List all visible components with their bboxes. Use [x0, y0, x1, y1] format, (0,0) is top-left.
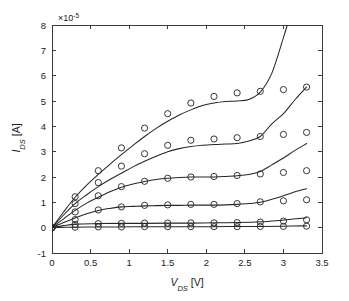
x-tick-label: 3.5 [315, 257, 328, 268]
x-tick-label: 2.5 [238, 257, 251, 268]
y-tick-label: 6 [41, 70, 46, 81]
y-tick-label: 0 [41, 222, 46, 233]
y-tick-label: 5 [41, 96, 46, 107]
x-tick-label: 1.5 [161, 257, 174, 268]
figure-container: 00.511.522.533.5 -1012345678 ×10-5 VDS [… [0, 0, 349, 301]
y-tick-label: 4 [41, 121, 46, 132]
iv-characteristics-chart: 00.511.522.533.5 -1012345678 ×10-5 VDS [… [0, 0, 349, 301]
x-tick-label: 0 [49, 257, 54, 268]
x-tick-label: 1 [126, 257, 131, 268]
x-tick-label: 3 [281, 257, 286, 268]
y-tick-label: -1 [38, 248, 46, 259]
x-tick-label: 2 [204, 257, 209, 268]
y-tick-label: 8 [41, 20, 46, 31]
y-tick-label: 3 [41, 146, 46, 157]
y-tick-label: 1 [41, 197, 46, 208]
y-tick-label: 7 [41, 45, 46, 56]
x-tick-label: 0.5 [84, 257, 97, 268]
y-tick-label: 2 [41, 172, 46, 183]
